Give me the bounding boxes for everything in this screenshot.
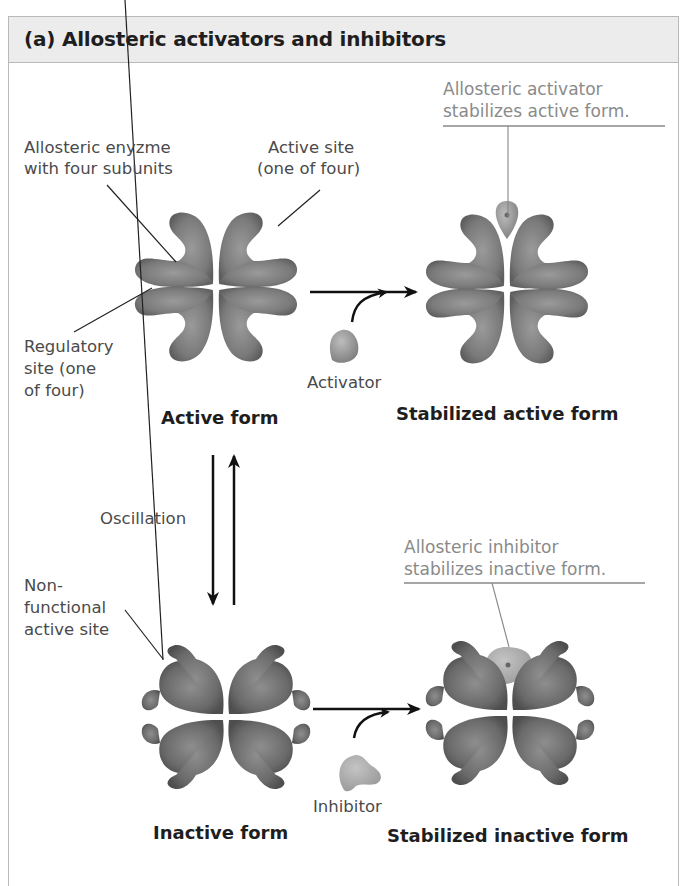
- label-nonfunctional-line1: Non-: [24, 575, 63, 596]
- enzyme-stabilized-inactive-form: [426, 641, 595, 785]
- leader-enzyme: [107, 185, 176, 262]
- callout-inhibitor-line1: Allosteric inhibitor: [404, 536, 559, 558]
- inhibitor-binding-arrow: [354, 712, 388, 738]
- label-regulatory-line1: Regulatory: [24, 336, 114, 357]
- callout-inhibitor-leader: [492, 583, 509, 647]
- callout-inhibitor-line2: stabilizes inactive form.: [404, 558, 606, 580]
- enzyme-inactive-form: [142, 645, 311, 789]
- label-active-site-line1: Active site: [268, 137, 354, 158]
- state-stabilized-inactive-form: Stabilized inactive form: [387, 825, 629, 846]
- leader-nonfunctional-site: [125, 0, 163, 660]
- label-inhibitor: Inhibitor: [313, 796, 382, 817]
- activator-icon: [330, 330, 358, 363]
- label-oscillation: Oscillation: [100, 508, 186, 529]
- label-regulatory-line3: of four): [24, 380, 85, 401]
- state-stabilized-active-form: Stabilized active form: [396, 403, 619, 424]
- leader-active-site: [278, 190, 320, 226]
- label-activator: Activator: [307, 372, 381, 393]
- label-enzyme-line1: Allosteric enyzme: [24, 137, 171, 158]
- enzyme-stabilized-active-form: [426, 201, 588, 363]
- label-active-site-line2: (one of four): [257, 158, 360, 179]
- label-regulatory-line2: site (one: [24, 358, 96, 379]
- state-inactive-form: Inactive form: [153, 822, 288, 843]
- callout-activator-line2: stabilizes active form.: [443, 100, 630, 122]
- enzyme-active-form: [135, 213, 297, 362]
- state-active-form: Active form: [161, 407, 278, 428]
- label-nonfunctional-line3: active site: [24, 619, 109, 640]
- label-enzyme-line2: with four subunits: [24, 158, 173, 179]
- callout-activator-line1: Allosteric activator: [443, 78, 603, 100]
- bound-activator-icon: [496, 201, 519, 239]
- activator-binding-arrow: [352, 292, 386, 322]
- inhibitor-icon: [339, 755, 381, 791]
- label-nonfunctional-line2: functional: [24, 597, 106, 618]
